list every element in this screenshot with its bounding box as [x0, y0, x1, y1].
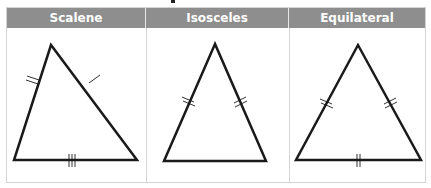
- scalene-triangle: [14, 45, 137, 167]
- equilateral-triangle: [296, 45, 421, 167]
- scalene-left-side-ticks: [26, 76, 39, 84]
- triangles-diagram: [0, 0, 431, 188]
- isosceles-triangle: [164, 44, 266, 161]
- scalene-right-side-ticks: [89, 75, 100, 83]
